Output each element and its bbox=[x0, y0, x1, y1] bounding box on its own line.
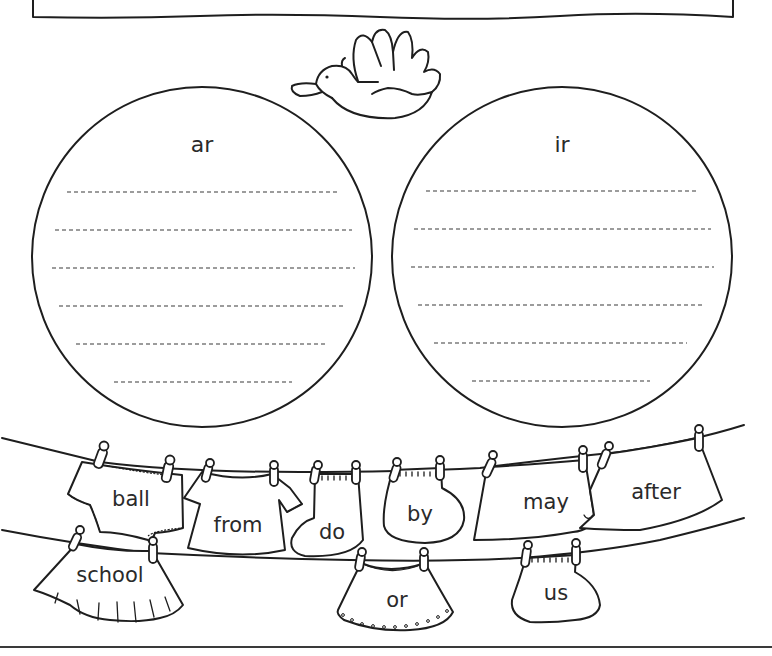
circle-heading-ir: ir bbox=[554, 132, 570, 157]
clothes-word: school bbox=[76, 563, 143, 587]
clothes-word: may bbox=[523, 490, 569, 514]
clothes-item-from[interactable]: from bbox=[184, 472, 302, 555]
clothes-word: by bbox=[407, 502, 433, 526]
word-sort-circle-ir: ir bbox=[392, 87, 732, 427]
peg-icon bbox=[579, 446, 587, 472]
peg-icon bbox=[572, 539, 580, 565]
clothes-word: after bbox=[631, 480, 681, 504]
instruction-box bbox=[33, 0, 733, 19]
clothes-item-after[interactable]: after bbox=[580, 438, 722, 530]
clothes-item-or[interactable]: or bbox=[338, 563, 453, 630]
clothes-word: from bbox=[214, 513, 263, 537]
clothes-word: us bbox=[544, 581, 568, 605]
worksheet: ar ir ball from do bbox=[0, 0, 772, 656]
word-sort-circle-ar: ar bbox=[32, 87, 372, 427]
clothes-word: do bbox=[319, 520, 345, 544]
bird-icon bbox=[292, 30, 440, 118]
peg-icon bbox=[436, 456, 444, 480]
clothes-item-do[interactable]: do bbox=[291, 474, 363, 556]
clothes-word: or bbox=[386, 588, 408, 612]
peg-icon bbox=[270, 461, 278, 486]
peg-icon bbox=[352, 461, 360, 484]
peg-icon bbox=[695, 425, 703, 451]
clothes-word: ball bbox=[112, 487, 150, 511]
peg-icon bbox=[149, 537, 157, 563]
circle-heading-ar: ar bbox=[191, 132, 214, 157]
peg-icon bbox=[420, 548, 428, 571]
clothes-item-school[interactable]: school bbox=[34, 544, 183, 622]
